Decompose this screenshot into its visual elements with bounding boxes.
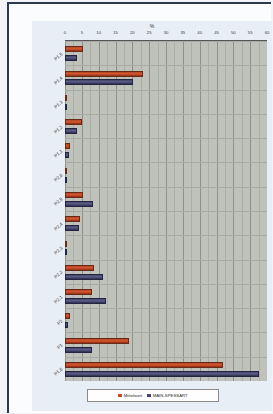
bar-main-spessart [65,104,67,110]
bar-mittelwert [65,119,82,125]
legend-swatch-icon [147,394,151,398]
x-tick-label: 15 [113,30,118,35]
x-tick-label: 10 [96,30,101,35]
row-separator [65,65,267,66]
y-tick-label: P2,3 [37,246,63,269]
y-tick-label: P2,1 [37,294,63,317]
x-tick-label: 0 [64,30,66,35]
bar-mittelwert [65,241,67,247]
bar-mittelwert [65,46,83,52]
bar-main-spessart [65,177,67,183]
bar-main-spessart [65,225,79,231]
row-separator [65,138,267,139]
bar-mittelwert [65,95,67,101]
legend-swatch-icon [118,394,122,398]
legend-label: Mittelwert [124,393,142,398]
bar-mittelwert [65,71,143,77]
row-separator [65,187,267,188]
legend-item: Mittelwert [118,393,142,398]
y-tick-label: P2,6 [37,173,63,196]
bar-mittelwert [65,338,129,344]
legend-label: MAIN-SPESSART [153,393,188,398]
row-separator [65,41,267,42]
row-separator [65,308,267,309]
bar-mittelwert [65,289,92,295]
plot-area [65,41,267,381]
y-tick-label: P2,5 [37,197,63,220]
row-separator [65,284,267,285]
x-tick-label: 55 [248,30,253,35]
bar-main-spessart [65,128,77,134]
bar-mittelwert [65,216,80,222]
y-tick-label: P1,6 [37,367,63,390]
bar-main-spessart [65,371,259,377]
row-separator [65,114,267,115]
bar-main-spessart [65,298,106,304]
y-axis-category-labels: P1,5P1,4P1,3P1,2P1,1P2,6P2,5P2,4P2,3P2,2… [32,41,65,381]
y-tick-label: P1,3 [37,100,63,123]
bar-main-spessart [65,274,103,280]
y-tick-label: P2,4 [37,221,63,244]
y-tick-label: P2 [37,318,63,341]
x-tick-label: 35 [180,30,185,35]
row-separator [65,90,267,91]
chart-canvas: % 051015202530354045505560 P1,5P1,4P1,3P… [32,21,272,411]
y-tick-label: P1,4 [37,76,63,99]
bar-main-spessart [65,79,133,85]
x-tick-label: 30 [164,30,169,35]
x-tick-label: 40 [197,30,202,35]
x-tick-label: 60 [265,30,270,35]
paper-sheet: % 051015202530354045505560 P1,5P1,4P1,3P… [11,5,269,411]
y-tick-label: P1,1 [37,148,63,171]
bar-mittelwert [65,313,70,319]
scanned-page-background: % 051015202530354045505560 P1,5P1,4P1,3P… [0,0,273,414]
bar-main-spessart [65,249,67,255]
y-tick-label: P1,2 [37,124,63,147]
bar-main-spessart [65,152,69,158]
row-separator [65,260,267,261]
row-separator [65,357,267,358]
bar-main-spessart [65,55,77,61]
legend-item: MAIN-SPESSART [147,393,188,398]
x-tick-label: 45 [214,30,219,35]
x-tick-label: 25 [147,30,152,35]
y-tick-label: P2,2 [37,270,63,293]
x-tick-label: 5 [81,30,83,35]
row-separator [65,332,267,333]
bar-main-spessart [65,322,68,328]
bar-main-spessart [65,201,93,207]
x-axis-unit-label: % [32,23,272,29]
y-tick-label: P1,5 [37,51,63,74]
bar-mittelwert [65,362,223,368]
row-separator [65,235,267,236]
x-tick-label: 20 [130,30,135,35]
row-separator [65,162,267,163]
bar-main-spessart [65,347,92,353]
chart-legend: MittelwertMAIN-SPESSART [87,389,219,402]
bar-mittelwert [65,192,83,198]
row-separator [65,211,267,212]
bar-mittelwert [65,168,67,174]
bar-mittelwert [65,265,94,271]
y-tick-label: P1 [37,343,63,366]
bar-mittelwert [65,143,70,149]
x-tick-label: 50 [231,30,236,35]
